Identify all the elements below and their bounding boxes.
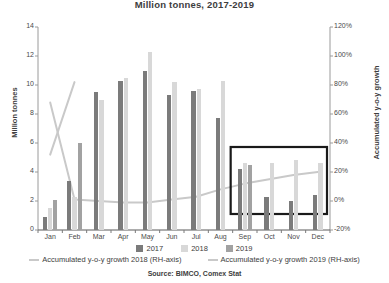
bar-2018-may <box>148 52 152 230</box>
bar-2017-feb <box>67 181 71 230</box>
bar-2018-apr <box>124 78 128 230</box>
bar-2018-jan <box>48 208 52 230</box>
bar-2019-sep <box>248 165 252 230</box>
legend-item-2017: 2017 <box>136 244 163 253</box>
legend-label: 2017 <box>146 244 163 253</box>
bar-2018-oct <box>270 163 274 230</box>
bar-2017-nov <box>289 201 293 230</box>
legend-label: 2018 <box>191 244 208 253</box>
bar-2017-jul <box>191 91 195 230</box>
bar-2017-jun <box>167 95 171 230</box>
bar-2018-aug <box>221 81 225 230</box>
legend-item-line: Accumulated y-o-y growth 2018 (RH-axis) <box>29 255 181 264</box>
legend-item-line: Accumulated y-o-y growth 2019 (RH-axis) <box>208 255 360 264</box>
bar-2017-jan <box>43 217 47 230</box>
bar-2017-aug <box>216 118 220 230</box>
bar-2018-dec <box>318 163 322 230</box>
bar-2018-mar <box>99 100 103 231</box>
legend-bar-series: 201720182019 <box>0 244 389 253</box>
legend-swatch-icon <box>181 245 188 252</box>
bar-2017-sep <box>238 169 242 230</box>
legend-line-swatch-icon <box>29 259 39 261</box>
legend-line-swatch-icon <box>208 259 218 261</box>
chart-legend: 201720182019 Accumulated y-o-y growth 20… <box>0 244 389 264</box>
bar-2017-oct <box>264 197 268 230</box>
chart-root: Million tonnes, 2017-2019 Million tonnes… <box>0 0 389 283</box>
bar-2017-mar <box>94 92 98 230</box>
legend-swatch-icon <box>226 245 233 252</box>
bar-2018-feb <box>72 197 76 230</box>
bar-2017-may <box>143 71 147 231</box>
bar-2017-apr <box>118 81 122 230</box>
bar-2019-jan <box>53 200 57 230</box>
legend-swatch-icon <box>136 245 143 252</box>
bar-2018-jun <box>172 82 176 230</box>
chart-source: Source: BIMCO, Comex Stat <box>0 270 389 277</box>
bar-2019-feb <box>78 143 82 230</box>
legend-label: 2019 <box>236 244 253 253</box>
line-series-accumulated-y-o-y-growth-2018-(rh-axis) <box>50 102 318 202</box>
legend-item-2019: 2019 <box>226 244 253 253</box>
bar-2018-sep <box>243 163 247 230</box>
legend-line-series: Accumulated y-o-y growth 2018 (RH-axis)A… <box>0 255 389 264</box>
bar-2018-nov <box>294 160 298 230</box>
legend-label: Accumulated y-o-y growth 2018 (RH-axis) <box>42 255 181 264</box>
bar-2017-dec <box>313 195 317 230</box>
legend-label: Accumulated y-o-y growth 2019 (RH-axis) <box>221 255 360 264</box>
legend-item-2018: 2018 <box>181 244 208 253</box>
bar-2018-jul <box>197 89 201 230</box>
